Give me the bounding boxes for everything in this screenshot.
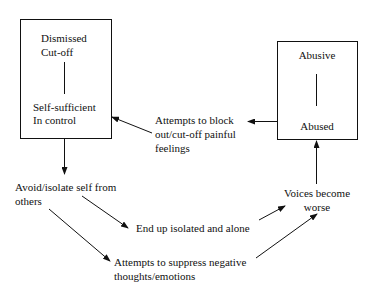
node-block-feelings-line3: feelings — [155, 142, 190, 155]
arrow-avoid-to-suppress — [49, 209, 110, 261]
node-isolated-alone: End up isolated and alone — [136, 222, 250, 235]
arrow-avoid-to-isolated — [82, 196, 128, 228]
node-avoid-isolate-line2: others — [15, 195, 42, 208]
left-box-label-self-sufficient: Self-sufficient — [33, 101, 96, 114]
right-box-label-abused: Abused — [277, 120, 357, 133]
diagram-canvas: Dismissed Cut-off Self-sufficient In con… — [0, 0, 370, 291]
arrow-block-to-leftbox — [112, 117, 152, 133]
left-box-label-cutoff: Cut-off — [41, 46, 73, 59]
node-suppress-line1: Attempts to suppress negative — [114, 256, 246, 269]
node-block-feelings-line1: Attempts to block — [155, 114, 234, 127]
node-voices-line1: Voices become — [276, 187, 358, 200]
left-box-label-in-control: In control — [33, 114, 76, 127]
right-box-label-abusive: Abusive — [277, 49, 357, 62]
node-block-feelings-line2: out/cut-off painful — [155, 128, 236, 141]
left-box-label-dismissed: Dismissed — [41, 32, 87, 45]
node-voices-line2: worse — [276, 201, 358, 214]
node-suppress-line2: thoughts/emotions — [114, 270, 195, 283]
node-avoid-isolate-line1: Avoid/isolate self from — [15, 181, 116, 194]
arrow-suppress-to-voices — [256, 214, 317, 258]
